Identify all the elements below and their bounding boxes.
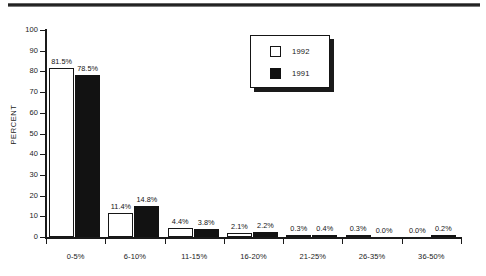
bar-1991-21-25% [312, 235, 337, 237]
bar-1991-11-15% [194, 229, 219, 237]
y-axis-tick [40, 30, 45, 31]
legend-label-1991: 1991 [292, 69, 310, 78]
legend-label-1992: 1992 [292, 47, 310, 56]
x-axis-tick [224, 238, 225, 244]
bar-1991-0-5% [75, 75, 100, 237]
x-axis-tick [461, 238, 462, 244]
y-axis-tick-label: 10 [12, 212, 38, 220]
x-axis-tick [342, 238, 343, 244]
x-axis-tick [165, 238, 166, 244]
bar-value-label: 78.5% [66, 65, 110, 73]
y-axis-tick-label: 60 [12, 109, 38, 117]
y-axis-tick [40, 216, 45, 217]
bar-chart: PERCENT 0102030405060708090100 0-5%6-10%… [0, 0, 486, 276]
y-axis-tick-label: 30 [12, 171, 38, 179]
legend-item-1992[interactable]: 1992 [251, 44, 329, 60]
x-axis-tick [46, 238, 47, 244]
legend-item-1991[interactable]: 1991 [251, 66, 329, 82]
bar-1992-0-5% [49, 68, 74, 237]
y-axis-tick-label: 80 [12, 67, 38, 75]
x-axis-line [45, 237, 462, 239]
y-axis-tick-label: 20 [12, 192, 38, 200]
y-axis-tick-label: 0 [12, 233, 38, 241]
y-axis-tick [40, 113, 45, 114]
y-axis-tick [40, 92, 45, 93]
y-axis-tick [40, 71, 45, 72]
y-axis-tick [40, 175, 45, 176]
legend-box: 1992 1991 [250, 35, 330, 88]
x-axis-tick [283, 238, 284, 244]
y-axis-tick [40, 154, 45, 155]
y-axis-tick [40, 237, 45, 238]
y-axis-tick-label: 90 [12, 47, 38, 55]
x-axis-category-label: 36-50% [396, 252, 466, 261]
bar-value-label: 11.4% [99, 203, 143, 211]
y-axis-tick-label: 70 [12, 88, 38, 96]
bar-1992-6-10% [108, 213, 133, 237]
y-axis-tick-label: 40 [12, 150, 38, 158]
y-axis-tick [40, 196, 45, 197]
y-axis-labels: 0102030405060708090100 [8, 0, 38, 276]
bar-1992-11-15% [168, 228, 193, 237]
legend-swatch-1991-icon [270, 68, 281, 79]
y-axis-tick [40, 134, 45, 135]
y-axis-tick [40, 51, 45, 52]
bar-value-label: 0.2% [421, 225, 465, 233]
x-axis-tick [105, 238, 106, 244]
bar-1992-26-35% [346, 235, 371, 237]
y-axis-tick-label: 50 [12, 130, 38, 138]
bar-1991-16-20% [253, 232, 278, 237]
x-axis-tick [402, 238, 403, 244]
y-axis-tick-label: 100 [12, 26, 38, 34]
bar-1992-16-20% [227, 233, 252, 237]
bar-value-label: 14.8% [125, 196, 169, 204]
bar-1992-21-25% [286, 235, 311, 237]
legend-swatch-1992-icon [270, 46, 281, 57]
bar-1991-36-50% [431, 235, 456, 237]
